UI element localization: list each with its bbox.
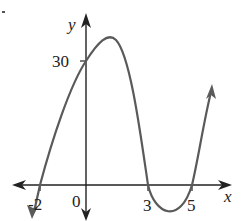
y-axis xyxy=(81,13,91,221)
polynomial-graph: y x 30 0 -2 3 5 xyxy=(0,0,241,221)
tick-label-30: 30 xyxy=(52,52,69,71)
curve-up-arrow-icon xyxy=(206,84,216,99)
y-axis-label: y xyxy=(66,15,76,34)
tick-label-3: 3 xyxy=(143,196,152,215)
origin-label: 0 xyxy=(72,192,81,211)
tick-label-5: 5 xyxy=(187,196,196,215)
stray-mark xyxy=(2,11,5,13)
x-axis-label: x xyxy=(223,187,232,206)
tick-label-neg2: -2 xyxy=(28,195,42,214)
x-axis xyxy=(12,180,232,190)
